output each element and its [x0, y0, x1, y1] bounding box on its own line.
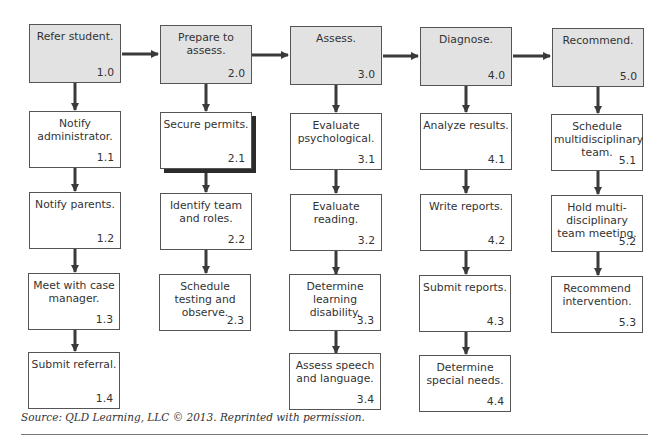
process-box-3-4: Assess speech and language. 3.4 [289, 353, 381, 410]
box-label: Notify administrator. [32, 117, 118, 143]
process-box-2-2: Identify team and roles. 2.2 [160, 193, 252, 250]
process-box-1-1: Notify administrator. 1.1 [29, 111, 121, 168]
box-number: 5.0 [620, 70, 637, 83]
box-label: Identify team and roles. [163, 199, 249, 225]
process-box-5-2: Hold multi-disciplinary team meeting. 5.… [551, 195, 643, 252]
box-number: 2.3 [227, 314, 244, 327]
box-label: Assess speech and language. [292, 359, 378, 385]
process-box-4-1: Analyze results. 4.1 [420, 113, 512, 170]
box-number: 4.0 [488, 69, 505, 82]
box-number: 3.2 [358, 234, 375, 247]
box-number: 1.4 [96, 392, 113, 405]
box-label: Notify parents. [32, 198, 118, 211]
process-box-1-4: Submit referral. 1.4 [28, 352, 120, 409]
process-box-5-1: Schedule multidisciplinary team. 5.1 [551, 114, 643, 171]
process-box-3-0: Assess. 3.0 [290, 26, 382, 85]
box-label: Recommend. [555, 34, 641, 47]
box-number: 1.0 [97, 66, 114, 79]
process-box-1-0: Refer student. 1.0 [29, 24, 121, 83]
divider [21, 434, 648, 435]
process-box-2-0: Prepare to assess. 2.0 [160, 25, 252, 84]
box-label: Evaluate psychological. [293, 119, 379, 145]
box-label: Evaluate reading. [293, 200, 379, 226]
box-number: 3.4 [357, 393, 374, 406]
process-box-2-3: Schedule testing and observe. 2.3 [159, 274, 251, 331]
box-label: Submit referral. [31, 358, 117, 371]
box-label: Determine special needs. [422, 361, 508, 387]
box-number: 1.2 [97, 232, 114, 245]
process-box-2-1: Secure permits. 2.1 [160, 112, 252, 169]
process-box-4-0: Diagnose. 4.0 [420, 27, 512, 86]
box-number: 4.2 [488, 234, 505, 247]
box-label: Meet with case manager. [31, 279, 117, 305]
box-label: Recommend intervention. [554, 282, 640, 308]
box-number: 4.3 [487, 315, 504, 328]
box-number: 1.3 [96, 313, 113, 326]
box-label: Prepare to assess. [163, 31, 249, 57]
box-number: 4.4 [487, 395, 504, 408]
box-label: Diagnose. [423, 33, 509, 46]
process-box-1-3: Meet with case manager. 1.3 [28, 273, 120, 330]
process-box-5-0: Recommend. 5.0 [552, 28, 644, 87]
process-box-4-4: Determine special needs. 4.4 [419, 355, 511, 412]
box-number: 5.1 [619, 154, 636, 167]
box-label: Analyze results. [423, 119, 509, 132]
process-box-4-2: Write reports. 4.2 [420, 194, 512, 251]
process-box-3-1: Evaluate psychological. 3.1 [290, 113, 382, 170]
box-label: Refer student. [32, 30, 118, 43]
process-box-5-3: Recommend intervention. 5.3 [551, 276, 643, 333]
box-label: Secure permits. [163, 118, 249, 131]
box-number: 4.1 [488, 153, 505, 166]
box-number: 3.3 [357, 314, 374, 327]
box-number: 2.1 [228, 152, 245, 165]
process-box-3-3: Determine learning disability. 3.3 [289, 274, 381, 331]
box-number: 2.0 [228, 67, 245, 80]
source-caption: Source: QLD Learning, LLC © 2013. Reprin… [21, 411, 365, 423]
box-number: 3.1 [358, 153, 375, 166]
process-box-3-2: Evaluate reading. 3.2 [290, 194, 382, 251]
box-number: 5.3 [619, 316, 636, 329]
box-label: Assess. [293, 32, 379, 45]
box-number: 2.2 [228, 233, 245, 246]
box-number: 3.0 [358, 68, 375, 81]
process-box-4-3: Submit reports. 4.3 [419, 275, 511, 332]
box-number: 5.2 [619, 235, 636, 248]
box-label: Write reports. [423, 200, 509, 213]
box-number: 1.1 [97, 151, 114, 164]
process-box-1-2: Notify parents. 1.2 [29, 192, 121, 249]
box-label: Submit reports. [422, 281, 508, 294]
